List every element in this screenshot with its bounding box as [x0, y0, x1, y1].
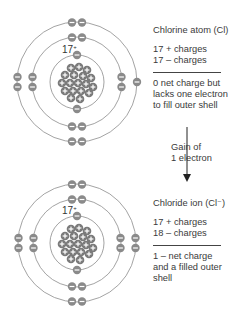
transition-line: 1 electron: [171, 153, 212, 164]
description-line: shell: [153, 273, 225, 284]
description-line: to fill outer shell: [153, 100, 228, 111]
chloride-title: Chloride ion (Cl⁻): [153, 198, 225, 209]
description-line: lacks one electron: [153, 89, 228, 100]
description-line: 1 – net charge: [153, 251, 225, 262]
description-line: 0 net charge but: [153, 78, 228, 89]
transition-label: Gain of 1 electron: [171, 142, 212, 164]
chloride-info: Chloride ion (Cl⁻) 17 + charges 18 – cha…: [153, 198, 225, 284]
divider: [153, 245, 221, 246]
divider: [153, 72, 221, 73]
negative-charges: 18 – charges: [153, 228, 225, 239]
chlorine-title: Chlorine atom (Cl): [153, 25, 228, 36]
chlorine-info: Chlorine atom (Cl) 17 + charges 17 – cha…: [153, 25, 228, 111]
positive-charges: 17 + charges: [153, 217, 225, 228]
chloride-ion: [14, 180, 139, 305]
description-line: and a filled outer: [153, 262, 225, 273]
transition-line: Gain of: [171, 142, 212, 153]
nucleus: [58, 63, 98, 104]
positive-charges: 17 + charges: [153, 44, 228, 55]
chlorine-atom: [13, 18, 141, 145]
negative-charges: 17 – charges: [153, 55, 228, 66]
